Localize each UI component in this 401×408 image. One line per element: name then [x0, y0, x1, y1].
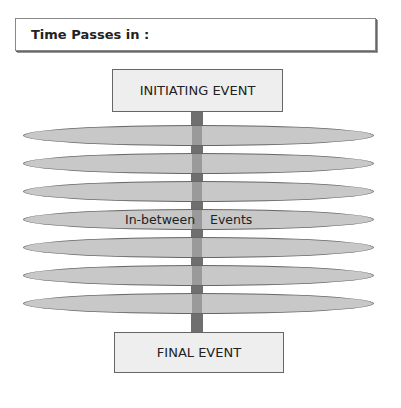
final-event-label: FINAL EVENT: [157, 345, 241, 360]
pole-segment-2: [192, 154, 202, 173]
pole-segment-1: [192, 126, 202, 145]
pole-segment-5: [192, 238, 202, 257]
events-label: Events: [210, 212, 252, 227]
header-title: Time Passes in :: [31, 27, 149, 42]
initiating-event-label: INITIATING EVENT: [140, 83, 256, 98]
pole-segment-7: [192, 294, 202, 313]
final-event-box: FINAL EVENT: [114, 332, 284, 373]
initiating-event-box: INITIATING EVENT: [112, 69, 283, 112]
pole-segment-3: [192, 182, 202, 201]
pole-segment-6: [192, 266, 202, 285]
in-between-label: In-between: [125, 212, 195, 227]
time-passes-header: Time Passes in :: [15, 18, 376, 51]
